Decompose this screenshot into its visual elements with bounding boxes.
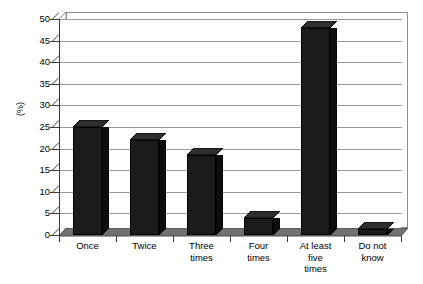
bar-front-face [187, 155, 216, 235]
x-axis-category-label-line: know [344, 252, 401, 264]
x-axis-category-label: Twice [116, 240, 173, 252]
bar-top-face [187, 148, 216, 155]
x-axis-category-label: Once [59, 240, 116, 252]
bar-side-face [330, 28, 337, 235]
bar-side-face [216, 155, 223, 235]
y-axis-tick-label: 35 [24, 79, 50, 89]
bar [301, 28, 330, 235]
x-axis-category-label-line: Twice [116, 240, 173, 252]
bar-side-face [102, 127, 109, 235]
x-axis-category-label-line: Four [230, 240, 287, 252]
bar-front-face [73, 127, 102, 235]
bar [187, 155, 216, 235]
y-axis-tick-label: 25 [24, 122, 50, 132]
bar [130, 140, 159, 235]
y-axis-tick-label: 45 [24, 36, 50, 46]
bar-side-face [273, 218, 280, 235]
bar [73, 127, 102, 235]
bar-top-face [130, 133, 159, 140]
y-axis-tick-mark [50, 12, 59, 21]
x-axis-category-label: Fourtimes [230, 240, 287, 263]
y-axis-tick-mark [50, 98, 59, 107]
x-axis-category-label: At leastfivetimes [287, 240, 344, 275]
x-axis-category-label-line: times [230, 252, 287, 264]
y-axis-tick-label: 40 [24, 57, 50, 67]
bar-chart: (%) 50454035302520151050 OnceTwiceThreet… [0, 0, 423, 284]
y-axis-tick-label: 30 [24, 100, 50, 110]
x-axis-labels: OnceTwiceThreetimesFourtimesAt leastfive… [59, 240, 408, 284]
x-axis-category-label-line: times [173, 252, 230, 264]
bar [244, 218, 273, 235]
bar-top-face [301, 21, 330, 28]
y-axis-tick-label: 10 [24, 187, 50, 197]
y-axis-tick-mark [50, 34, 59, 43]
y-axis-tick-mark [50, 55, 59, 64]
y-axis-tick-labels: 50454035302520151050 [24, 0, 50, 284]
y-axis-tick-mark [50, 77, 59, 86]
x-axis-category-label: Do notknow [344, 240, 401, 263]
x-axis-category-label-line: Do not [344, 240, 401, 252]
y-axis-tick-mark [50, 142, 59, 151]
bar-front-face [244, 218, 273, 235]
bar-front-face [130, 140, 159, 235]
y-axis-tick-mark [50, 206, 59, 215]
x-axis-category-label-line: times [287, 263, 344, 275]
bars-layer [59, 19, 408, 236]
y-axis-tick-label: 20 [24, 144, 50, 154]
bar-side-face [387, 229, 394, 235]
bar-top-face [73, 120, 102, 127]
y-axis-tick-mark [50, 185, 59, 194]
bar-top-face [244, 211, 273, 218]
bar [358, 229, 387, 235]
y-axis-tick-label: 15 [24, 165, 50, 175]
y-axis-tick-label: 50 [24, 14, 50, 24]
x-axis-category-label-line: five [287, 252, 344, 264]
y-axis-tick-label: 0 [24, 230, 50, 240]
x-axis-category-label-line: At least [287, 240, 344, 252]
x-axis-category-label-line: Three [173, 240, 230, 252]
bar-front-face [358, 229, 387, 235]
x-axis-category-label-line: Once [59, 240, 116, 252]
bar-top-face [358, 222, 387, 229]
x-axis-category-label: Threetimes [173, 240, 230, 263]
y-axis-tick-mark [50, 228, 59, 237]
y-axis-tick-mark [50, 120, 59, 129]
bar-front-face [301, 28, 330, 235]
y-axis-tick-label: 5 [24, 208, 50, 218]
bar-side-face [159, 140, 166, 235]
y-axis-tick-mark [50, 163, 59, 172]
